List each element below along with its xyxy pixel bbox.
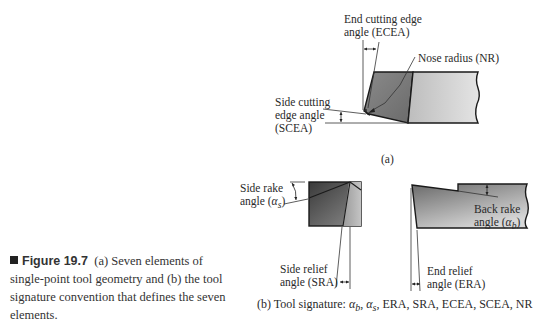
caption-bullet-icon <box>10 256 18 264</box>
scea-label: Side cutting edge angle (SCEA) <box>275 96 330 135</box>
caption-line-4: elements. <box>10 308 58 322</box>
ecea-label-line1: End cutting edge <box>344 13 422 26</box>
caption-line-2: single-point tool geometry and (b) the t… <box>10 272 222 286</box>
back-rake-label-line1: Back rake <box>474 203 520 216</box>
ecea-label: End cutting edge angle (ECEA) <box>344 13 422 39</box>
tool-side-view <box>309 182 361 226</box>
scea-label-line3: (SCEA) <box>275 122 330 135</box>
side-rake-label-line2: angle (αs) <box>240 195 285 211</box>
end-relief-label-line1: End relief <box>427 265 485 278</box>
scea-label-line2: edge angle <box>275 109 330 122</box>
scea-dimension-arrow <box>340 112 343 122</box>
part-a-label: (a) <box>381 153 394 166</box>
end-relief-label-line2: angle (ERA) <box>427 278 485 291</box>
tool-signature-label: (b) Tool signature: αb, αs, ERA, SRA, EC… <box>257 298 532 314</box>
side-rake-label: Side rake angle (αs) <box>240 182 285 211</box>
sra-dimension-arrow <box>340 281 349 284</box>
era-dimension-arrow <box>412 283 420 286</box>
side-relief-label: Side relief angle (SRA) <box>280 263 338 289</box>
era-face-line <box>417 230 420 291</box>
figure-caption: Figure 19.7 (a) Seven elements of single… <box>10 252 235 323</box>
scea-label-line1: Side cutting <box>275 96 330 109</box>
ecea-label-line2: angle (ECEA) <box>344 26 422 39</box>
tool-top-view <box>364 72 479 123</box>
figure-number: Figure 19.7 <box>22 254 88 268</box>
end-relief-label: End relief angle (ERA) <box>427 265 485 291</box>
nose-radius-label: Nose radius (NR) <box>418 52 499 65</box>
side-relief-label-line1: Side relief <box>280 263 338 276</box>
caption-line-3: signature convention that defines the se… <box>10 290 226 304</box>
back-rake-label: Back rake angle (αb) <box>474 203 520 232</box>
side-rake-dimension-arrow <box>292 183 297 200</box>
side-rake-label-line1: Side rake <box>240 182 285 195</box>
side-relief-label-line2: angle (SRA) <box>280 276 338 289</box>
back-rake-label-line2: angle (αb) <box>474 216 520 232</box>
caption-line-1: (a) Seven elements of <box>94 254 203 268</box>
ecea-dimension-arrow <box>364 48 376 51</box>
